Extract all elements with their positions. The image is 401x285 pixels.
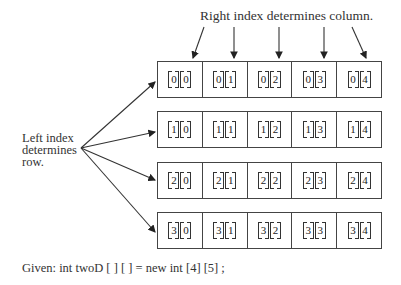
column-index: 2: [270, 172, 281, 189]
row-index: 1: [303, 121, 314, 138]
row-index: 0: [258, 71, 269, 88]
row-index: 0: [303, 71, 314, 88]
array-cell: 01: [203, 62, 248, 97]
column-index: 2: [270, 121, 281, 138]
declaration-caption: Given: int twoD [ ] [ ] = new int [4] [5…: [22, 262, 225, 274]
array-cell: 13: [292, 112, 337, 147]
array-cell: 31: [203, 213, 248, 248]
row-index: 0: [213, 71, 224, 88]
row-index: 2: [348, 172, 359, 189]
array-cell: 32: [248, 213, 293, 248]
row-index: 2: [303, 172, 314, 189]
array-cell: 24: [337, 163, 381, 198]
array-cell: 22: [248, 163, 293, 198]
array-cell: 33: [292, 213, 337, 248]
array-row-2: 20 21 22 23 24: [157, 162, 382, 199]
row-arrow-2: [81, 148, 155, 180]
column-index: 1: [225, 172, 236, 189]
row-index: 1: [348, 121, 359, 138]
row-arrow-0: [81, 82, 155, 148]
column-arrow-4: [352, 27, 366, 58]
row-index: 1: [213, 121, 224, 138]
array-cell: 03: [292, 62, 337, 97]
row-index: 3: [258, 222, 269, 239]
array-cell: 34: [337, 213, 381, 248]
column-index: 1: [225, 71, 236, 88]
column-index: 0: [180, 172, 191, 189]
row-index: 0: [348, 71, 359, 88]
array-cell: 11: [203, 112, 248, 147]
array-row-0: 00 01 02 03 04: [157, 61, 382, 98]
column-index: 3: [315, 172, 326, 189]
row-index: 1: [258, 121, 269, 138]
row-index: 3: [213, 222, 224, 239]
row-index: 2: [168, 172, 179, 189]
column-index: 3: [315, 222, 326, 239]
array-cell: 23: [292, 163, 337, 198]
row-index: 0: [168, 71, 179, 88]
column-index: 1: [225, 121, 236, 138]
column-index: 0: [180, 121, 191, 138]
array-cell: 10: [158, 112, 203, 147]
column-index: 0: [180, 71, 191, 88]
array-cell: 21: [203, 163, 248, 198]
array-cell: 00: [158, 62, 203, 97]
column-index: 4: [360, 71, 371, 88]
column-index: 2: [270, 222, 281, 239]
row-arrow-1: [81, 132, 155, 148]
row-annotation-line-3: row.: [22, 156, 77, 168]
array-cell: 04: [337, 62, 381, 97]
column-index: 4: [360, 121, 371, 138]
array-cell: 20: [158, 163, 203, 198]
array-cell: 14: [337, 112, 381, 147]
row-index: 2: [213, 172, 224, 189]
row-index: 3: [303, 222, 314, 239]
row-arrow-3: [81, 148, 155, 232]
array-cell: 30: [158, 213, 203, 248]
column-index: 0: [180, 222, 191, 239]
row-index: 1: [168, 121, 179, 138]
column-index: 3: [315, 71, 326, 88]
array-row-1: 10 11 12 13 14: [157, 111, 382, 148]
column-arrow-0: [193, 27, 204, 58]
array-row-3: 30 31 32 33 34: [157, 212, 382, 249]
row-index: 3: [168, 222, 179, 239]
column-index: 3: [315, 121, 326, 138]
row-index: 3: [348, 222, 359, 239]
array-cell: 12: [248, 112, 293, 147]
column-index: 4: [360, 172, 371, 189]
column-index: 2: [270, 71, 281, 88]
column-annotation: Right index determines column.: [200, 10, 373, 22]
row-index: 2: [258, 172, 269, 189]
column-index: 4: [360, 222, 371, 239]
column-index: 1: [225, 222, 236, 239]
row-annotation: Left index determines row.: [22, 132, 77, 168]
array-cell: 02: [248, 62, 293, 97]
